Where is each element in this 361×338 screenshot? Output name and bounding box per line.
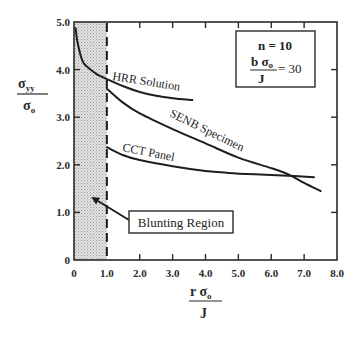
chart: 01.02.03.04.05.06.07.08.0 01.02.03.04.05…: [0, 0, 361, 338]
label-senb-specimen: SENB Specimen: [168, 106, 247, 154]
x-tick-label: 8.0: [330, 267, 344, 279]
x-tick-label: 7.0: [297, 267, 311, 279]
param-equals: = 30: [278, 61, 302, 76]
x-tick-labels: 01.02.03.04.05.06.07.08.0: [71, 267, 344, 279]
y-tick-label: 4.0: [56, 64, 70, 76]
y-tick-labels: 01.02.03.04.05.0: [56, 16, 70, 266]
x-axis-label-denominator: J: [200, 306, 207, 321]
y-axis-label-denominator: σo: [23, 98, 36, 115]
y-tick-label: 1.0: [56, 206, 70, 218]
x-tick-label: 4.0: [199, 267, 213, 279]
y-tick-label: 0: [65, 254, 71, 266]
label-hrr-solution: HRR Solution: [112, 69, 182, 94]
x-tick-label: 1.0: [100, 267, 114, 279]
x-tick-label: 6.0: [264, 267, 278, 279]
x-axis-label-numerator: r σo: [190, 284, 212, 301]
param-fraction-denominator: J: [258, 71, 265, 86]
blunting-region-label: Blunting Region: [138, 215, 225, 230]
blunting-region-shade: [74, 22, 107, 260]
label-cct-panel: CCT Panel: [121, 140, 176, 164]
y-axis-label: σyy σo: [17, 76, 48, 115]
parameter-box: n = 10 b σo J = 30: [236, 31, 315, 87]
x-tick-label: 2.0: [133, 267, 147, 279]
y-tick-label: 5.0: [56, 16, 70, 28]
blunting-annotation: Blunting Region: [93, 198, 233, 233]
y-tick-label: 2.0: [56, 159, 70, 171]
x-tick-label: 5.0: [232, 267, 246, 279]
y-tick-label: 3.0: [56, 111, 70, 123]
x-tick-label: 0: [71, 267, 77, 279]
param-n: n = 10: [258, 38, 292, 53]
x-tick-label: 3.0: [166, 267, 180, 279]
x-axis-label: r σo J: [189, 284, 222, 321]
y-axis-label-numerator: σyy: [18, 76, 35, 93]
